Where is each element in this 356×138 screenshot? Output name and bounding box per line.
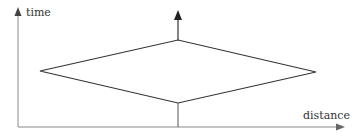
time-axis-arrowhead-icon <box>15 7 22 16</box>
distance-axis-arrowhead-icon <box>336 124 345 131</box>
diamond-shape <box>40 40 316 103</box>
time-axis-label: time <box>26 6 51 19</box>
center-arrowhead-icon <box>174 10 182 20</box>
spacetime-diagram: time distance <box>0 0 356 138</box>
distance-axis-label: distance <box>303 109 350 122</box>
